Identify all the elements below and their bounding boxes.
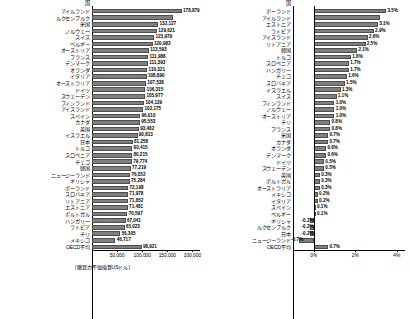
right-x-axis: 0%2%4%: [293, 250, 405, 262]
bar: [314, 68, 349, 73]
bar: [314, 29, 374, 34]
bar: [92, 9, 182, 14]
right-chart-panel: 国 ポーランド3.5%アイルランドエストニア3.1%ラトビア2.9%アイスランド…: [205, 0, 410, 319]
bar: [92, 114, 140, 119]
bar: [314, 127, 331, 132]
bar: [92, 205, 128, 210]
bar: [92, 22, 158, 27]
bar: [314, 35, 368, 40]
bar: [314, 199, 318, 204]
bar: [314, 48, 358, 53]
bar: [314, 9, 387, 14]
bar: [92, 42, 153, 47]
bar: [92, 238, 115, 243]
bar: [314, 94, 337, 99]
axis-tick-label: 2%: [352, 253, 359, 258]
bar: [92, 55, 148, 60]
axis-tick-label: 4%: [393, 253, 400, 258]
bar: [92, 192, 128, 197]
bar: [92, 29, 157, 34]
bar: [92, 94, 145, 99]
bar: [92, 101, 144, 106]
bar: [314, 61, 349, 66]
bar: [314, 159, 324, 164]
bar: [314, 87, 341, 92]
right-bar-rows: ポーランド3.5%アイルランドエストニア3.1%ラトビア2.9%アイスランド2.…: [205, 8, 410, 250]
bar: [92, 199, 128, 204]
axis-tick-label: 50,000: [110, 253, 125, 258]
bar: [92, 35, 154, 40]
bar: [314, 120, 331, 125]
left-axis-unit-label: (購買力平価換算USドル): [0, 263, 205, 270]
bar: [92, 81, 146, 86]
bar: [92, 140, 133, 145]
bar: [92, 61, 148, 66]
bar: [314, 146, 326, 151]
bar: [314, 42, 366, 47]
bar: [92, 231, 120, 236]
bar: [92, 15, 173, 20]
bar: [92, 166, 131, 171]
bar: [314, 101, 335, 106]
bar: [92, 212, 127, 217]
bar: [314, 245, 329, 250]
bar: [314, 179, 320, 184]
zero-line: [314, 6, 315, 250]
bar: [92, 68, 147, 73]
bar: [92, 133, 138, 138]
left-chart-panel: 国 アイルランド178,879ルクセンブルク米国132,127ノルウェー129,…: [0, 0, 205, 319]
bar: [92, 153, 132, 158]
bar: [92, 173, 130, 178]
bar: [314, 114, 335, 119]
bar: [314, 166, 324, 171]
bar: [314, 140, 329, 145]
bar: [314, 55, 351, 60]
axis-tick-label: 150,000: [159, 253, 176, 258]
bar: [314, 22, 378, 27]
bar: [92, 245, 142, 250]
left-bar-rows: アイルランド178,879ルクセンブルク米国132,127ノルウェー129,62…: [0, 8, 205, 250]
bar: [92, 146, 132, 151]
bar: [92, 225, 125, 230]
bar: [314, 15, 380, 20]
bar: [92, 107, 143, 112]
bar: [92, 74, 147, 79]
bar: [314, 153, 326, 158]
bar: [314, 192, 318, 197]
bar: [92, 87, 145, 92]
axis-tick-label: 100,000: [134, 253, 151, 258]
bar: [92, 186, 128, 191]
bar: [314, 74, 347, 79]
bar: [314, 81, 345, 86]
bar: [314, 173, 320, 178]
left-column-header: 国: [0, 0, 92, 8]
chart-page: 国 アイルランド178,879ルクセンブルク米国132,127ノルウェー129,…: [0, 0, 410, 319]
axis-tick-label: 200,000: [184, 253, 201, 258]
bar: [314, 133, 329, 138]
bar: [92, 127, 139, 132]
bar: [92, 179, 130, 184]
bar: [92, 48, 149, 53]
category-label: OECD平均: [0, 244, 92, 251]
category-label: OECD平均: [205, 244, 293, 251]
left-x-axis: 50,000100,000150,000200,000: [92, 250, 200, 262]
bar: [92, 159, 132, 164]
axis-tick-label: 0%: [310, 253, 317, 258]
bar: [314, 186, 320, 191]
bar: [314, 107, 335, 112]
right-column-header: 国: [205, 0, 293, 8]
bar: [92, 120, 140, 125]
bar: [92, 218, 126, 223]
